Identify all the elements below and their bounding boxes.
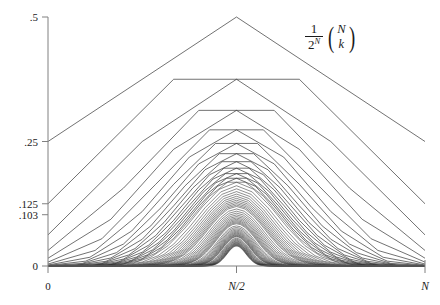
binomial-curve	[48, 182, 425, 266]
binomial-curve	[48, 174, 425, 266]
binomial-curve	[48, 154, 425, 266]
binomial-curve	[48, 229, 425, 266]
binomial-curve	[48, 110, 425, 250]
binomial-curve	[48, 154, 425, 266]
binomial-curve	[48, 174, 425, 266]
x-tick-label: N/2	[227, 280, 245, 292]
binomial-column: N k	[336, 22, 346, 52]
left-paren: (	[328, 25, 334, 49]
binomial-curve	[48, 209, 425, 266]
binomial-curve	[48, 182, 425, 266]
right-paren: )	[348, 25, 354, 49]
binomial-curve	[48, 79, 425, 235]
x-tick-label: N	[420, 280, 430, 292]
formula-annotation: 1 2N ( N k )	[305, 22, 357, 52]
fraction-one-over-two-to-n: 1 2N	[305, 22, 323, 52]
y-tick-label: 0	[33, 260, 39, 272]
fraction-denominator: 2N	[305, 36, 323, 52]
x-tick-label: 0	[45, 280, 51, 292]
y-tick-label: .25	[24, 136, 38, 148]
binomial-top: N	[337, 22, 345, 37]
y-tick-label: .5	[30, 11, 39, 23]
curve-group	[48, 17, 425, 266]
binomial-bottom: k	[339, 37, 345, 52]
y-tick-label: .103	[19, 209, 39, 221]
binomial-curve	[48, 232, 425, 266]
plot-canvas: .5.25.125.10300N/2N	[0, 0, 440, 305]
binomial-distribution-figure: .5.25.125.10300N/2N 1 2N ( N k )	[0, 0, 440, 305]
binomial-curve	[48, 168, 425, 266]
binomial-curve	[48, 162, 425, 266]
denominator-exponent: N	[315, 36, 321, 46]
fraction-numerator: 1	[308, 22, 321, 36]
binomial-coefficient: ( N k )	[326, 22, 356, 52]
binomial-curve	[48, 168, 425, 266]
binomial-curve	[48, 79, 425, 204]
binomial-curve	[48, 162, 425, 266]
